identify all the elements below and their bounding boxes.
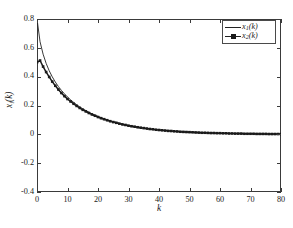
x-tick-top <box>37 19 38 23</box>
x-tick-top <box>68 19 69 23</box>
legend-label-x2: x2(k) <box>241 31 258 42</box>
legend-item-x2: x2(k) <box>225 32 272 41</box>
legend: x1(k) x2(k) <box>222 20 276 44</box>
x-tick-bottom <box>37 188 38 192</box>
y-tick-right <box>277 106 281 107</box>
y-tick-left <box>37 106 41 107</box>
legend-line-sample-x1 <box>225 23 241 32</box>
plot-area <box>37 19 281 192</box>
x-tick-bottom <box>251 188 252 192</box>
y-tick-right <box>277 48 281 49</box>
x-axis-title: k <box>37 203 281 213</box>
y-tick-right <box>277 134 281 135</box>
figure: 0.80.60.40.20-0.2-0.401020304050607080 x… <box>0 0 293 228</box>
x-tick-top <box>159 19 160 23</box>
y-tick-label: 0.8 <box>24 15 34 23</box>
y-axis-title-base: x <box>4 104 14 108</box>
x-tick-bottom <box>98 188 99 192</box>
x-tick-top <box>98 19 99 23</box>
y-tick-label: 0.2 <box>24 101 34 109</box>
y-axis-title-subscript: i <box>8 102 16 104</box>
x-tick-bottom <box>159 188 160 192</box>
x-tick-top <box>190 19 191 23</box>
y-tick-left <box>37 77 41 78</box>
x-tick-bottom <box>220 188 221 192</box>
x-tick-bottom <box>68 188 69 192</box>
x-tick-bottom <box>281 188 282 192</box>
x-tick-top <box>129 19 130 23</box>
y-tick-left <box>37 163 41 164</box>
y-tick-left <box>37 192 41 193</box>
x-tick-bottom <box>129 188 130 192</box>
y-tick-label: 0 <box>30 130 34 138</box>
y-tick-right <box>277 163 281 164</box>
x-tick-top <box>281 19 282 23</box>
y-tick-right <box>277 192 281 193</box>
y-tick-left <box>37 134 41 135</box>
y-axis-title: xi(k) <box>4 72 16 128</box>
y-tick-label: 0.4 <box>24 72 34 80</box>
y-tick-label: -0.2 <box>21 159 34 167</box>
x-tick-bottom <box>190 188 191 192</box>
y-axis-title-tail: (k) <box>4 92 14 102</box>
y-tick-label: 0.6 <box>24 44 34 52</box>
legend-marker-sample-x2 <box>225 32 241 41</box>
y-tick-right <box>277 77 281 78</box>
x-tick-top <box>220 19 221 23</box>
y-tick-left <box>37 48 41 49</box>
